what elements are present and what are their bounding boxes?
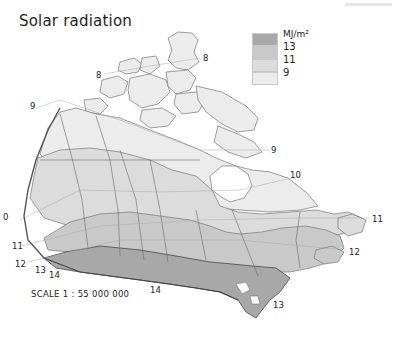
legend-break-13: 13 bbox=[283, 41, 296, 52]
contour-label: 9 bbox=[271, 145, 276, 155]
contour-label: 8 bbox=[96, 70, 101, 80]
map-scale: SCALE 1 : 55 000 000 bbox=[31, 289, 129, 299]
legend-break-11: 11 bbox=[283, 54, 296, 65]
contour-label: 10 bbox=[290, 170, 301, 180]
legend-swatch-gt13 bbox=[252, 33, 278, 46]
contour-label: 13 bbox=[35, 265, 46, 275]
contour-label: 11 bbox=[12, 241, 23, 251]
legend-swatch-lt9 bbox=[252, 72, 278, 85]
contour-label: 12 bbox=[15, 259, 26, 269]
contour-label: 14 bbox=[49, 270, 60, 280]
contour-label: 0 bbox=[3, 212, 8, 222]
contour-label: 8 bbox=[203, 53, 208, 63]
contour-label: 13 bbox=[273, 300, 284, 310]
contour-label: 9 bbox=[30, 101, 35, 111]
legend-swatch-11-13 bbox=[252, 46, 278, 59]
legend-unit: MJ/m² bbox=[283, 29, 309, 39]
contour-label: 11 bbox=[372, 214, 383, 224]
contour-label: 14 bbox=[150, 285, 161, 295]
legend-swatch-9-11 bbox=[252, 59, 278, 72]
legend-break-9: 9 bbox=[283, 67, 289, 78]
contour-label: 12 bbox=[349, 247, 360, 257]
